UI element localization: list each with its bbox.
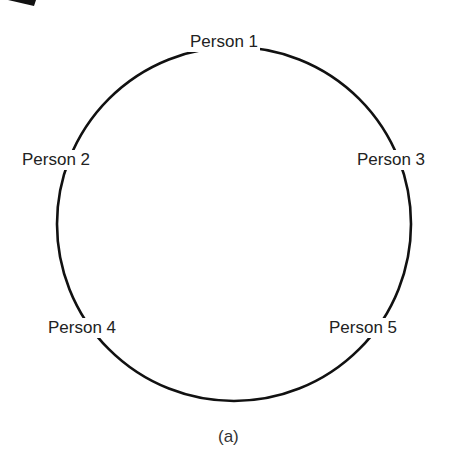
node-person-1: Person 1 — [188, 32, 260, 52]
node-person-2: Person 2 — [20, 150, 92, 170]
ring-circle — [57, 47, 411, 401]
node-person-3: Person 3 — [355, 150, 427, 170]
node-person-4: Person 4 — [46, 318, 118, 338]
corner-arrow-fragment — [8, 0, 36, 6]
ring-diagram — [0, 0, 459, 469]
node-person-5: Person 5 — [327, 318, 399, 338]
figure-caption: (a) — [218, 427, 239, 447]
